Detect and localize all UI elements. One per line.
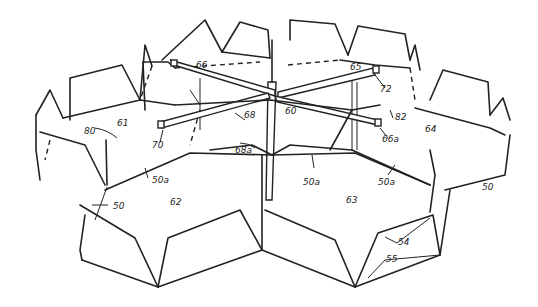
label-50-right: 50 xyxy=(482,182,494,192)
label-68: 68 xyxy=(244,110,256,120)
hex-panel-60 xyxy=(175,100,380,155)
label-62: 62 xyxy=(170,197,182,207)
label-50a-right: 50a xyxy=(378,177,395,187)
label-66a: 66a xyxy=(382,134,399,144)
label-65: 65 xyxy=(350,62,362,72)
label-54: 54 xyxy=(398,237,410,247)
label-72: 72 xyxy=(380,84,392,94)
hex-panel-63 xyxy=(262,153,450,287)
label-50: 50 xyxy=(113,201,125,211)
label-82: 82 xyxy=(395,112,407,122)
label-50a-left: 50a xyxy=(152,175,169,185)
hex-panel-62 xyxy=(80,153,272,287)
hex-panel-61 xyxy=(36,66,175,185)
label-70: 70 xyxy=(152,140,164,150)
label-64: 64 xyxy=(425,124,437,134)
patent-figure: 61 80 70 66 68 68a 60 65 72 82 66a 64 50… xyxy=(0,0,538,307)
hexagon-shelter-drawing: 61 80 70 66 68 68a 60 65 72 82 66a 64 50… xyxy=(0,0,538,307)
rod-72 xyxy=(278,68,375,98)
label-60: 60 xyxy=(285,106,297,116)
pole-and-rods xyxy=(158,40,381,200)
label-55: 55 xyxy=(386,254,398,264)
label-61: 61 xyxy=(117,118,128,128)
rod-66 xyxy=(170,60,275,96)
label-80: 80 xyxy=(84,126,96,136)
label-63: 63 xyxy=(346,195,358,205)
label-68a: 68a xyxy=(235,145,252,155)
label-50a-mid: 50a xyxy=(303,177,320,187)
label-66: 66 xyxy=(196,60,208,70)
